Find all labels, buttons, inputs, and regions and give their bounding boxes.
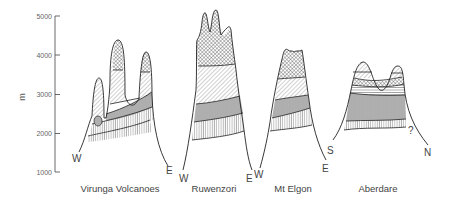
elgon-label: Mt Elgon [274, 183, 312, 194]
aberdare-label: Aberdare [358, 183, 397, 194]
aberdare-north-label: N [424, 147, 431, 158]
y-tick-3000: 3000 [36, 91, 52, 98]
y-tick-2000: 2000 [36, 130, 52, 137]
y-axis-label: m [17, 93, 27, 101]
ruwenzori-west-label: W [179, 173, 189, 184]
mountain-aberdare: ? S N Aberdare [327, 62, 431, 194]
y-tick-4000: 4000 [36, 52, 52, 59]
elgon-east-label: E [322, 163, 329, 174]
elgon-west-label: W [254, 169, 264, 180]
y-axis: 5000 4000 3000 2000 1000 m [17, 13, 60, 176]
mountain-virunga: W E Virunga Volcanoes [72, 40, 173, 194]
y-tick-1000: 1000 [36, 169, 52, 176]
virunga-east-label: E [166, 165, 173, 176]
aberdare-south-label: S [327, 145, 334, 156]
virunga-west-label: W [72, 153, 82, 164]
mountain-mt-elgon: W E Mt Elgon [254, 49, 329, 194]
y-tick-5000: 5000 [36, 13, 52, 20]
ruwenzori-east-label: E [246, 173, 253, 184]
virunga-label: Virunga Volcanoes [80, 183, 159, 194]
mountain-ruwenzori: W E Ruwenzori [179, 10, 253, 194]
ruwenzori-label: Ruwenzori [192, 183, 237, 194]
aberdare-annotation: ? [408, 125, 414, 136]
vegetation-zonation-diagram: 5000 4000 3000 2000 1000 m W E Virunga V… [0, 0, 450, 206]
